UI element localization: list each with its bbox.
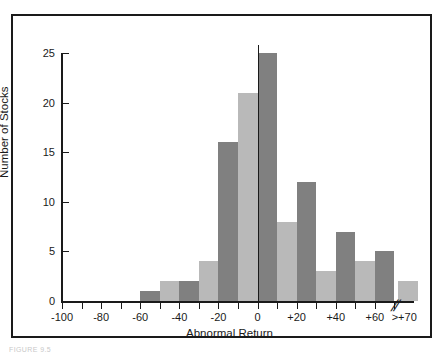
y-axis-tick-label: 20 <box>43 97 55 109</box>
y-axis-tick-label: 15 <box>43 146 55 158</box>
histogram-bar <box>355 261 375 301</box>
x-axis-tick <box>355 303 356 309</box>
x-axis-tick <box>258 303 259 309</box>
y-axis-tick <box>63 202 69 203</box>
histogram-bar <box>316 271 336 301</box>
x-axis-tick-label: +60 <box>366 311 385 323</box>
y-axis-tick <box>63 251 69 252</box>
x-axis-tick <box>297 303 298 309</box>
x-axis-tick-label: -40 <box>171 311 187 323</box>
y-axis-title: Number of Stocks <box>0 87 10 178</box>
histogram-bar <box>297 182 317 301</box>
x-axis-tick <box>82 303 83 309</box>
x-axis-tick <box>121 303 122 309</box>
y-axis-tick-label: 0 <box>49 295 55 307</box>
zero-reference-line <box>258 45 259 303</box>
x-axis-tick <box>218 303 219 309</box>
histogram-chart: 0510152025 -100-80-60-40-200+20+40+60>+7… <box>2 2 445 359</box>
x-axis-tick <box>179 303 180 309</box>
y-axis-tick-label: 5 <box>49 245 55 257</box>
x-axis-tick-label: +20 <box>287 311 306 323</box>
histogram-bar <box>375 251 395 301</box>
x-axis-tick <box>140 303 141 309</box>
y-axis-tick <box>63 53 69 54</box>
x-axis-tick-label: -80 <box>93 311 109 323</box>
x-axis-tick <box>238 303 239 309</box>
y-axis-tick <box>63 301 69 302</box>
histogram-bar <box>398 281 418 301</box>
histogram-bar <box>336 232 356 301</box>
x-axis-tick <box>375 303 376 309</box>
histogram-bar <box>218 142 238 301</box>
histogram-bar <box>160 281 180 301</box>
x-axis-tick <box>336 303 337 309</box>
y-axis-tick <box>63 152 69 153</box>
y-axis-tick-label: 10 <box>43 196 55 208</box>
histogram-bar <box>277 222 297 301</box>
x-axis-tick-label: +40 <box>326 311 345 323</box>
histogram-bar <box>179 281 199 301</box>
histogram-bar <box>199 261 219 301</box>
histogram-bar <box>238 93 258 301</box>
histogram-bar <box>258 53 278 301</box>
x-axis-title: Abnormal Return <box>2 327 445 339</box>
figure-frame: 0510152025 -100-80-60-40-200+20+40+60>+7… <box>11 14 432 338</box>
x-axis-tick-label: -60 <box>132 311 148 323</box>
x-axis-tick <box>277 303 278 309</box>
x-axis-tick-label: -20 <box>210 311 226 323</box>
x-axis-tick <box>316 303 317 309</box>
x-axis-tick <box>160 303 161 309</box>
x-axis-tick <box>199 303 200 309</box>
x-axis-tick <box>62 303 63 309</box>
y-axis-tick-label: 25 <box>43 47 55 59</box>
axis-break-marker: // <box>392 298 397 314</box>
x-axis-tick-label: -100 <box>51 311 73 323</box>
x-axis-tick-label: 0 <box>254 311 260 323</box>
x-axis-tick <box>101 303 102 309</box>
figure-caption: FIGURE 9.5 <box>9 346 73 355</box>
y-axis-line <box>61 53 63 303</box>
histogram-bar <box>140 291 160 301</box>
y-axis-tick <box>63 103 69 104</box>
